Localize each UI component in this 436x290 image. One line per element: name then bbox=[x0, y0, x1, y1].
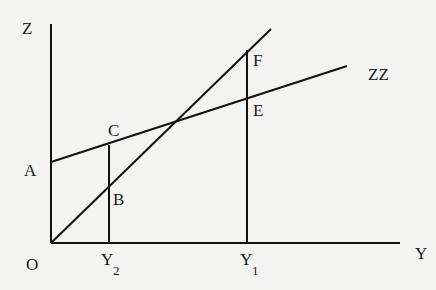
point-c-label: C bbox=[108, 121, 119, 140]
y2-marker-label: Y 2 bbox=[101, 250, 120, 278]
svg-text:1: 1 bbox=[252, 263, 259, 278]
z-axis-label: Z bbox=[22, 19, 32, 38]
y1-marker-label: Y 1 bbox=[240, 250, 259, 278]
svg-text:2: 2 bbox=[113, 263, 120, 278]
point-a-label: A bbox=[24, 161, 37, 180]
svg-text:Y: Y bbox=[101, 250, 113, 269]
zz-line-label: ZZ bbox=[368, 65, 389, 84]
origin-label: O bbox=[26, 255, 38, 274]
y-axis-label: Y bbox=[415, 244, 427, 263]
point-b-label: B bbox=[113, 190, 124, 209]
point-f-label: F bbox=[253, 51, 262, 70]
point-e-label: E bbox=[253, 101, 263, 120]
zz-line bbox=[51, 66, 347, 162]
forty-five-degree-line bbox=[51, 29, 271, 243]
diagram-canvas: Z ZZ F E C A B O Y 2 Y 1 Y bbox=[0, 0, 436, 290]
svg-text:Y: Y bbox=[240, 250, 252, 269]
